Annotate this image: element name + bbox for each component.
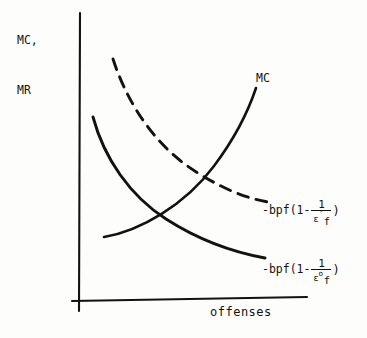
economics-diagram [0, 0, 367, 338]
formula-suffix: ) [332, 264, 339, 276]
fraction-denominator: ε o f [311, 270, 331, 283]
epsilon-prime-mark: ´ [319, 209, 324, 221]
epsilon-subscript-f: f [324, 274, 330, 286]
x-axis [72, 297, 307, 301]
y-axis [79, 13, 80, 311]
marginal-cost-curve [104, 88, 256, 237]
formula-suffix: ) [332, 205, 339, 217]
epsilon-subscript-f: f [324, 215, 330, 227]
y-axis-label-mc: MC, [17, 33, 38, 47]
marginal-revenue-base-curve [93, 117, 265, 258]
marginal-revenue-high-elasticity-curve [113, 59, 268, 202]
fraction-one-over-epsilon-zero: 1 ε o f [311, 259, 331, 283]
epsilon-superscript-zero: o [319, 268, 324, 280]
y-axis-label-mr: MR [17, 83, 31, 97]
formula-prefix: -bpf(1- [262, 264, 310, 276]
formula-prefix: -bpf(1- [262, 205, 310, 217]
curve-label-mc: MC [256, 71, 270, 85]
fraction-one-over-epsilon-prime: 1 ε ´ f [311, 200, 331, 224]
x-axis-label-offenses: offenses [210, 305, 272, 319]
curve-label-mr-high-elasticity: -bpf(1- 1 ε ´ f ) [262, 199, 340, 223]
curve-label-mr-base-elasticity: -bpf(1- 1 ε o f ) [262, 258, 340, 282]
fraction-denominator: ε ´ f [311, 211, 331, 224]
